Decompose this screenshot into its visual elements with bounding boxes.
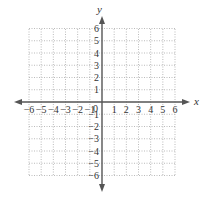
y-tick-label: −5	[88, 158, 99, 169]
x-tick-label: −6	[24, 104, 35, 115]
y-tick-label: 5	[94, 35, 99, 46]
x-tick-label: 4	[148, 104, 153, 115]
x-axis-right-arrow-icon	[182, 99, 190, 105]
coordinate-plane: x y −6−5−4−3−2−1123456 654321−1−2−3−4−5−…	[0, 0, 208, 199]
y-tick-label: −6	[88, 170, 99, 181]
y-tick-label: 1	[94, 84, 99, 95]
y-axis-label: y	[96, 3, 102, 15]
x-tick-label: 6	[173, 104, 178, 115]
x-tick-label: −4	[48, 104, 59, 115]
y-tick-label: 2	[94, 72, 99, 83]
x-tick-label: 2	[124, 104, 129, 115]
y-tick-label: −2	[88, 121, 99, 132]
y-tick-label: −3	[88, 133, 99, 144]
x-tick-labels: −6−5−4−3−2−1123456	[24, 104, 178, 115]
x-tick-label: −2	[72, 104, 83, 115]
y-tick-label: 6	[94, 23, 99, 34]
y-axis-up-arrow-icon	[99, 16, 105, 24]
x-tick-label: −3	[60, 104, 71, 115]
y-tick-label: 3	[94, 60, 99, 71]
x-tick-label: −5	[36, 104, 47, 115]
x-tick-label: 3	[136, 104, 141, 115]
y-axis-down-arrow-icon	[99, 184, 105, 192]
y-tick-label: −4	[88, 146, 99, 157]
origin-label: 0	[93, 103, 98, 114]
x-tick-label: 1	[112, 104, 117, 115]
x-tick-label: 5	[160, 104, 165, 115]
x-axis-left-arrow-icon	[14, 99, 22, 105]
y-tick-label: 4	[94, 48, 99, 59]
x-axis-label: x	[193, 95, 199, 107]
